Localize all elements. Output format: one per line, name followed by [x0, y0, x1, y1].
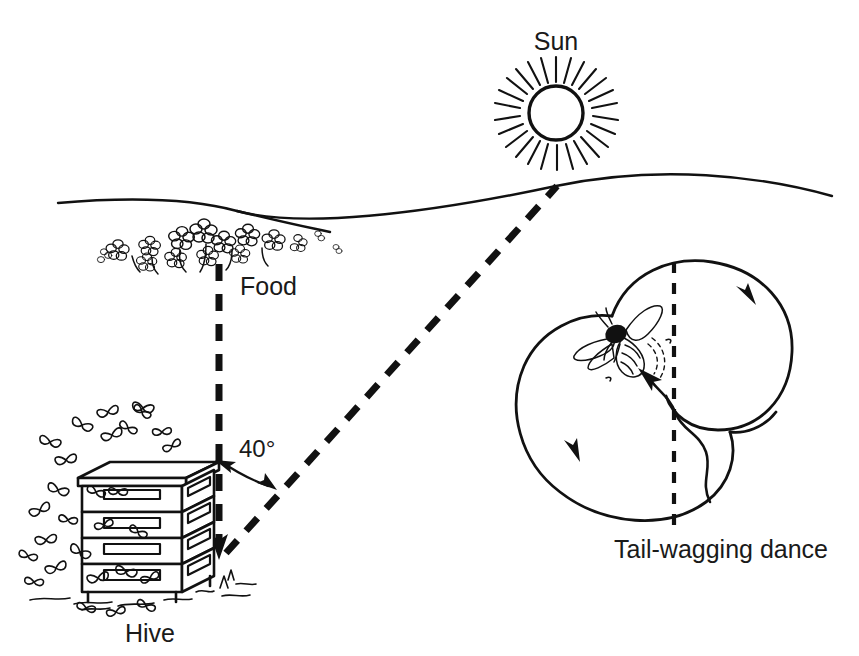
- dance-arrow-left: [564, 438, 580, 462]
- figure-eight-path: [516, 261, 792, 521]
- angle-arc-40-degrees: [215, 460, 277, 490]
- diagram-canvas: Sun: [0, 0, 859, 656]
- hive-label: Hive: [125, 619, 175, 647]
- bee-dance-figure: Sun: [0, 0, 859, 656]
- sun-icon: [495, 57, 618, 170]
- sun-disc: [529, 86, 583, 140]
- angle-arc-arrowhead-right: [257, 473, 277, 490]
- angle-label: 40°: [239, 435, 275, 462]
- sun-label: Sun: [534, 27, 578, 55]
- dance-arrow-right: [736, 283, 756, 305]
- horizon-line: [58, 174, 832, 232]
- food-label: Food: [240, 272, 297, 300]
- waggle-motion-lines: [648, 338, 665, 378]
- tail-wagging-dance-label: Tail-wagging dance: [614, 535, 828, 563]
